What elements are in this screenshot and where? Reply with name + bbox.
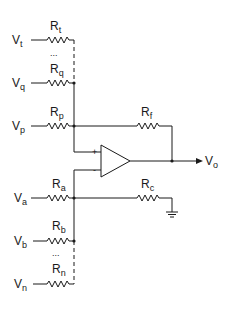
input-branch-q	[31, 80, 74, 86]
opamp-triangle	[101, 145, 130, 177]
ellipsis-bottom: ...	[52, 248, 60, 258]
ground-icon	[166, 212, 178, 217]
label-rb: Rb	[52, 219, 66, 235]
input-branch-t	[31, 37, 74, 43]
label-vp: Vp	[12, 119, 25, 135]
ellipsis-top: ...	[50, 48, 58, 58]
label-ra: Ra	[52, 177, 66, 193]
label-vo: Vo	[205, 154, 218, 170]
label-rn: Rn	[52, 262, 66, 278]
label-rc: Rc	[141, 177, 155, 193]
resistor-rp	[47, 123, 69, 129]
label-vq: Vq	[12, 76, 25, 92]
opamp-plus: +	[92, 147, 97, 157]
label-rq: Rq	[50, 62, 64, 78]
ground-resistor-rc	[137, 195, 172, 212]
label-rf: Rf	[141, 105, 153, 121]
label-vt: Vt	[12, 33, 23, 49]
label-va: Va	[14, 191, 27, 207]
resistor-rt	[47, 37, 69, 43]
junction-dot	[170, 159, 173, 162]
junction-dot	[72, 124, 75, 127]
label-vn: Vn	[14, 277, 27, 293]
junction-dot	[72, 81, 75, 84]
opamp-minus: -	[93, 165, 96, 175]
label-rp: Rp	[50, 105, 64, 121]
circuit-diagram: Vt Vq Vp Va Vb Vn Vo Rt Rq Rp Rf Ra Rc R…	[0, 0, 231, 309]
feedback-resistor-rf	[137, 123, 172, 161]
input-branch-n	[33, 281, 74, 287]
input-branch-b	[33, 238, 74, 244]
resistor-rq	[47, 80, 69, 86]
output-arrow-icon	[196, 158, 203, 164]
label-vb: Vb	[14, 234, 27, 250]
resistor-rn	[47, 281, 69, 287]
input-branch-a	[31, 195, 137, 201]
resistor-ra	[47, 195, 69, 201]
resistor-rb	[47, 238, 69, 244]
label-rt: Rt	[50, 19, 62, 35]
input-branch-p	[31, 123, 137, 129]
